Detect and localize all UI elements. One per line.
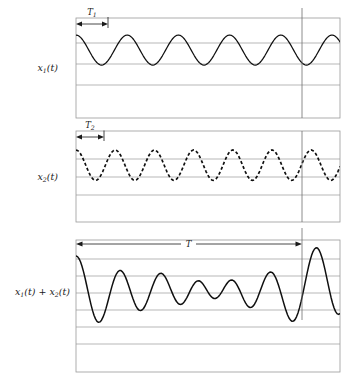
panel-x1-ylabel: x1(t) (37, 62, 58, 74)
figure-background (0, 0, 359, 378)
panel-x2-ylabel: x2(t) (37, 171, 58, 183)
signal-beat-figure: T1 x1(t) T2 x2(t) (0, 0, 359, 378)
